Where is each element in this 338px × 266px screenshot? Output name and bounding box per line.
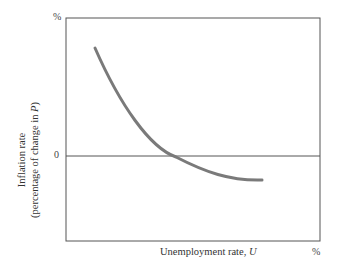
x-axis-label: Unemployment rate, U [160, 246, 257, 257]
y-axis-label: Inflation rate (percentage of change in … [6, 60, 50, 260]
y-axis-label-line2: (percentage of change in P) [28, 102, 41, 218]
chart-frame [66, 18, 320, 241]
phillips-curve [95, 48, 262, 180]
y-axis-label-line1: Inflation rate [15, 102, 28, 218]
phillips-curve-chart: % 0 % Inflation rate (percentage of chan… [0, 0, 338, 266]
y-zero-label: 0 [54, 149, 59, 160]
y-unit-label: % [53, 11, 61, 22]
x-unit-label: % [312, 246, 320, 257]
chart-plot-area [0, 0, 338, 266]
